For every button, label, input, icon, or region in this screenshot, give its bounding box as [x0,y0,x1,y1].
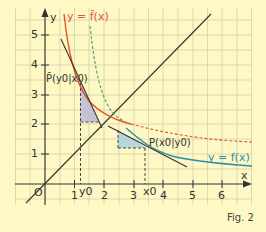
y0-axis-mark: y0 [79,186,93,197]
y-tick-3: 3 [31,89,38,100]
y-tick-1: 1 [31,148,38,159]
x-tick-5: 5 [189,190,196,201]
y-tick-2: 2 [31,118,38,129]
curve-dashed-green [90,26,130,124]
x0-axis-mark: x0 [143,186,157,197]
x-tick-6: 6 [218,190,225,201]
origin-label: O [34,187,43,198]
y-tick-4: 4 [31,59,38,70]
f-label: y = f(x) [208,152,250,163]
x-axis-label: x [241,170,248,181]
axes [15,12,250,205]
x-tick-3: 3 [130,190,137,201]
figure-caption: Fig. 2 [227,213,254,223]
point-pbar-label: P̄(y0|x0) [46,74,88,84]
grid [15,8,252,205]
x-tick-4: 4 [160,190,167,201]
y-axis-label: y [50,12,57,23]
y-axis-arrow-icon [42,8,49,17]
point-p-label: P(x0|y0) [149,138,191,148]
x-tick-1: 1 [71,190,78,201]
f-bar-label: y = f̄(x) [67,11,109,22]
line-y-equals-x [26,14,211,203]
y-tick-5: 5 [31,29,38,40]
curve-f-bar [64,14,131,124]
x-tick-2: 2 [101,190,108,201]
